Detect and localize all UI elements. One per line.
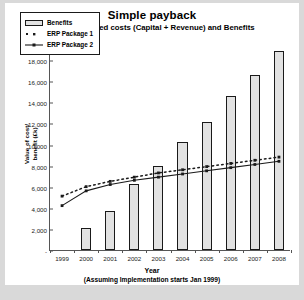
- x-tick-label: 2006: [224, 255, 238, 262]
- data-point-marker: [229, 162, 232, 165]
- y-tick-label: 8,000: [32, 163, 47, 170]
- y-tick-label: 16,000: [28, 79, 47, 86]
- data-point-marker: [253, 159, 256, 162]
- data-point-marker: [85, 185, 88, 188]
- plot-area: -2,0004,0006,0008,00010,00012,00014,0001…: [49, 40, 290, 251]
- data-point-marker: [253, 163, 256, 166]
- data-point-marker: [278, 160, 281, 163]
- data-point-marker: [157, 172, 160, 175]
- legend-item-erp-package-1: ERP Package 1: [25, 28, 93, 39]
- line-series-layer: [50, 40, 291, 251]
- data-point-marker: [181, 168, 184, 171]
- y-tick-label: 10,000: [28, 142, 47, 149]
- y-tick-label: 18,000: [28, 58, 47, 65]
- y-tick-label: 2,000: [32, 226, 47, 233]
- x-tick-label: 2005: [200, 255, 214, 262]
- data-point-marker: [133, 179, 136, 182]
- bar-swatch-icon: [25, 20, 43, 26]
- x-tick-label: 2007: [248, 255, 262, 262]
- data-point-marker: [61, 195, 64, 198]
- data-point-marker: [278, 156, 281, 159]
- y-tick-label: 12,000: [28, 121, 47, 128]
- data-point-marker: [205, 165, 208, 168]
- x-axis-sublabel: (Assuming Implementation starts Jan 1999…: [5, 276, 299, 283]
- chart-legend: Benefits ERP Package 1 ERP Package 2: [20, 12, 100, 55]
- x-tick-label: 2001: [103, 255, 117, 262]
- legend-item-benefits: Benefits: [25, 17, 93, 28]
- line-path: [62, 161, 279, 205]
- y-tick-label: 14,000: [28, 100, 47, 107]
- legend-label: ERP Package 1: [47, 30, 93, 37]
- data-point-marker: [205, 169, 208, 172]
- simple-payback-chart: Simple payback Non discounted costs (Cap…: [5, 3, 299, 285]
- x-tick-label: 2004: [176, 255, 190, 262]
- chart-card: Simple payback Non discounted costs (Cap…: [5, 3, 299, 285]
- dotted-line-marker-icon: [25, 30, 43, 38]
- x-tick-label: 2008: [272, 255, 286, 262]
- data-point-marker: [181, 173, 184, 176]
- x-tick-label: 2003: [152, 255, 166, 262]
- data-point-marker: [109, 180, 112, 183]
- y-tick-label: 6,000: [32, 184, 47, 191]
- x-tick-label: 2002: [127, 255, 141, 262]
- data-point-marker: [85, 189, 88, 192]
- x-tick-mark: [291, 250, 292, 253]
- line-path: [62, 157, 279, 196]
- x-tick-label: 1999: [55, 255, 69, 262]
- x-axis-label: Year: [5, 267, 299, 274]
- y-tick-label: 4,000: [32, 205, 47, 212]
- data-point-marker: [229, 166, 232, 169]
- legend-item-erp-package-2: ERP Package 2: [25, 39, 93, 50]
- x-tick-label: 2000: [79, 255, 93, 262]
- data-point-marker: [109, 183, 112, 186]
- legend-label: ERP Package 2: [47, 41, 93, 48]
- data-point-marker: [61, 204, 64, 207]
- legend-label: Benefits: [47, 19, 72, 26]
- solid-line-marker-icon: [25, 41, 43, 49]
- data-point-marker: [133, 176, 136, 179]
- y-tick-label: -: [45, 248, 47, 255]
- data-point-marker: [157, 176, 160, 179]
